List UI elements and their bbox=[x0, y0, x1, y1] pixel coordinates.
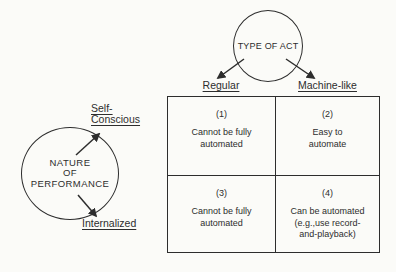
cell-3-number: (3) bbox=[168, 188, 275, 198]
cell-4-number: (4) bbox=[276, 188, 379, 198]
matrix-cell-2: (2) Easy to automate bbox=[276, 97, 379, 176]
cell-2-line-1: Easy to bbox=[276, 127, 379, 139]
cell-1-number: (1) bbox=[168, 109, 275, 119]
matrix-grid: (1) Cannot be fully automated (2) Easy t… bbox=[167, 96, 380, 253]
column-header-machine-like: Machine-like bbox=[275, 79, 380, 91]
type-of-act-label: TYPE OF ACT bbox=[238, 41, 299, 51]
cell-4-line-3: and-playback) bbox=[276, 229, 379, 241]
cell-2-line-2: automate bbox=[276, 139, 379, 151]
internalized-label: Internalized bbox=[82, 218, 136, 229]
cell-2-number: (2) bbox=[276, 109, 379, 119]
matrix-cell-3: (3) Cannot be fully automated bbox=[168, 176, 276, 252]
type-of-act-circle: TYPE OF ACT bbox=[233, 10, 303, 82]
self-conscious-label: Self- Conscious bbox=[91, 103, 140, 125]
figure-canvas: TYPE OF ACT Regular Machine-like (1) Can… bbox=[0, 0, 396, 272]
cell-3-line-1: Cannot be fully bbox=[168, 206, 275, 218]
column-header-regular: Regular bbox=[167, 79, 275, 91]
matrix-cell-4: (4) Can be automated (e.g.,use record- a… bbox=[276, 176, 379, 252]
cell-1-line-2: automated bbox=[168, 139, 275, 151]
cell-1-line-1: Cannot be fully bbox=[168, 127, 275, 139]
nature-of-performance-circle: NATURE OF PERFORMANCE bbox=[21, 127, 119, 220]
nature-line-3: PERFORMANCE bbox=[31, 179, 109, 190]
cell-4-line-1: Can be automated bbox=[276, 206, 379, 218]
self-conscious-line-2: Conscious bbox=[91, 114, 140, 125]
cell-3-line-2: automated bbox=[168, 218, 275, 230]
cell-4-line-2: (e.g.,use record- bbox=[276, 218, 379, 230]
matrix-cell-1: (1) Cannot be fully automated bbox=[168, 97, 276, 176]
